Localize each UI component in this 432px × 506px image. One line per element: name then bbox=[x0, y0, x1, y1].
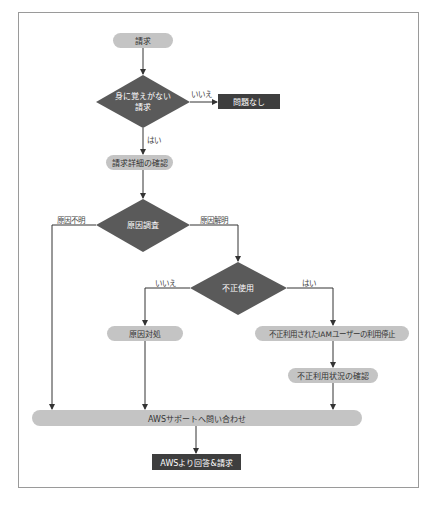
edge-label-fraud-yes: はい bbox=[302, 277, 316, 288]
decision-label-fraud: 不正使用 bbox=[195, 281, 281, 295]
arrow-cause-unknown bbox=[52, 225, 96, 409]
node-check-fraud-status: 不正利用状況の確認 bbox=[288, 368, 378, 383]
edge-label-unrecognized-no: いいえ bbox=[191, 88, 212, 99]
arrow-fraud-yes bbox=[287, 288, 333, 325]
decision-label: 不正使用 bbox=[222, 283, 254, 294]
decision-label-line2: 請求 bbox=[135, 102, 151, 113]
connector-layer bbox=[0, 0, 432, 506]
arrow-cause-found bbox=[190, 225, 238, 261]
node-label: AWSより回答&請求 bbox=[160, 457, 232, 468]
node-label: 請求 bbox=[135, 35, 151, 46]
node-check-details: 請求詳細の確認 bbox=[106, 155, 173, 170]
node-no-problem: 問題なし bbox=[218, 94, 280, 109]
node-stop-iam-user: 不正利用されたIAMユーザーの利用停止 bbox=[255, 326, 409, 341]
arrow-fraud-no bbox=[145, 288, 190, 325]
decision-label: 原因調査 bbox=[127, 220, 159, 231]
node-aws-response: AWSより回答&請求 bbox=[152, 454, 241, 470]
edge-label-cause-unknown: 原因不明 bbox=[57, 214, 85, 225]
decision-label-line1: 身に覚えがない bbox=[115, 91, 171, 102]
edge-label-cause-found: 原因解明 bbox=[200, 214, 228, 225]
decision-label-unrecognized: 身に覚えがない 請求 bbox=[100, 88, 186, 116]
node-contact-support: AWSサポートへ問い合わせ bbox=[32, 410, 362, 426]
node-label: 不正利用状況の確認 bbox=[297, 370, 369, 381]
edge-label-unrecognized-yes: はい bbox=[147, 134, 161, 145]
node-handle-cause: 原因対処 bbox=[107, 326, 183, 341]
edge-label-fraud-no: いいえ bbox=[155, 277, 176, 288]
decision-label-investigate: 原因調査 bbox=[100, 218, 186, 232]
node-label: AWSサポートへ問い合わせ bbox=[148, 413, 246, 424]
node-label: 原因対処 bbox=[129, 328, 161, 339]
node-start-billing: 請求 bbox=[113, 33, 173, 48]
node-label: 不正利用されたIAMユーザーの利用停止 bbox=[269, 328, 395, 339]
node-label: 請求詳細の確認 bbox=[112, 157, 168, 168]
node-label: 問題なし bbox=[233, 96, 265, 107]
